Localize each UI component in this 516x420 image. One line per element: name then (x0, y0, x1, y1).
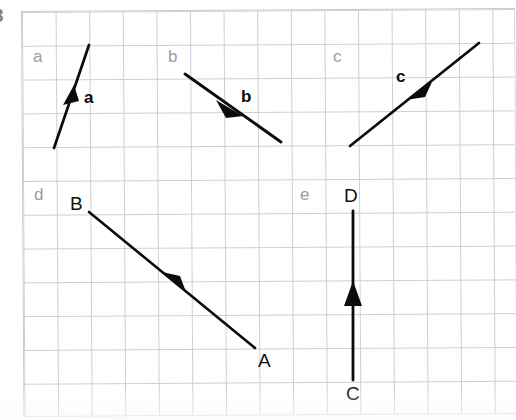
panel-label-b: b (168, 48, 178, 65)
endpoint-label-d: D (344, 186, 358, 205)
endpoint-label-c: C (346, 384, 360, 403)
vector-e-arrowhead (344, 281, 362, 306)
vector-label-b: b (241, 88, 251, 105)
vector-d-group (89, 212, 255, 348)
panel-label-d: d (34, 186, 44, 203)
vector-b-group (185, 74, 281, 142)
panel-label-e: e (300, 186, 310, 203)
panel-label-a: a (33, 48, 43, 65)
vector-label-a: a (84, 89, 93, 106)
vector-e-group (344, 211, 362, 380)
worksheet-page: 3 a b c d e a (0, 0, 516, 420)
endpoint-label-a: A (258, 351, 271, 370)
vector-label-c: c (396, 68, 405, 85)
endpoint-label-b: B (70, 194, 83, 213)
vector-c-group (350, 43, 479, 146)
panel-label-c: c (333, 48, 342, 65)
vector-b-arrowhead (216, 100, 243, 118)
vector-b-shaft (185, 74, 281, 142)
vector-a-arrowhead (63, 85, 79, 105)
